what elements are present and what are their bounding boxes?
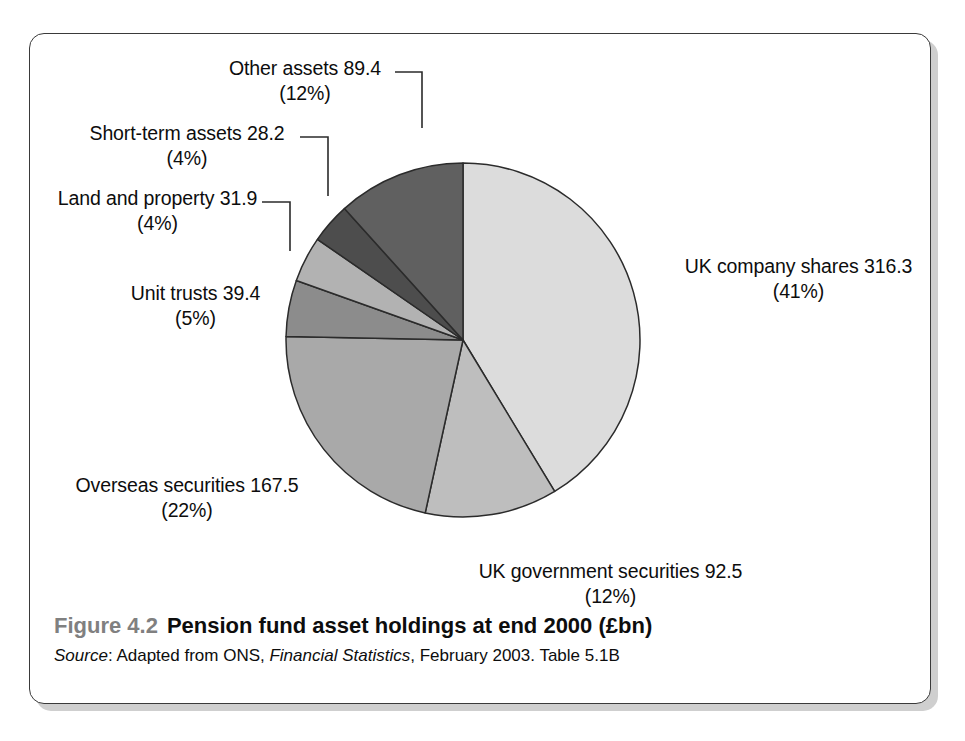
- figure-title: Pension fund asset holdings at end 2000 …: [167, 613, 652, 638]
- slice-label-overseas-securities-pct: (22%): [63, 498, 311, 523]
- source-publication: Financial Statistics: [269, 646, 410, 665]
- slice-label-land-and-property: Land and property 31.9 (4%): [45, 186, 270, 236]
- slice-label-uk-government-securities: UK government securities 92.5 (12%): [478, 559, 743, 609]
- pie-slices: [286, 163, 640, 517]
- figure-container: Other assets 89.4 (12%) Short-term asset…: [0, 0, 965, 741]
- slice-label-land-and-property-pct: (4%): [45, 211, 270, 236]
- source-post: , February 2003. Table 5.1B: [410, 646, 620, 665]
- figure-source-line: Source: Adapted from ONS, Financial Stat…: [54, 644, 894, 668]
- slice-label-other-assets-name: Other assets 89.4: [229, 57, 381, 79]
- slice-label-overseas-securities: Overseas securities 167.5 (22%): [63, 473, 311, 523]
- slice-label-unit-trusts: Unit trusts 39.4 (5%): [113, 281, 278, 331]
- slice-label-unit-trusts-name: Unit trusts 39.4: [131, 282, 261, 304]
- slice-label-other-assets: Other assets 89.4 (12%): [210, 56, 400, 106]
- slice-label-overseas-securities-name: Overseas securities 167.5: [76, 474, 299, 496]
- slice-label-short-term-assets-name: Short-term assets 28.2: [89, 122, 284, 144]
- slice-label-uk-government-securities-name: UK government securities 92.5: [479, 560, 743, 582]
- slice-label-uk-government-securities-pct: (12%): [478, 584, 743, 609]
- slice-label-short-term-assets-pct: (4%): [66, 146, 308, 171]
- figure-caption: Figure 4.2Pension fund asset holdings at…: [54, 612, 894, 668]
- slice-label-unit-trusts-pct: (5%): [113, 306, 278, 331]
- caption-title-line: Figure 4.2Pension fund asset holdings at…: [54, 612, 894, 640]
- slice-label-uk-company-shares: UK company shares 316.3 (41%): [679, 254, 918, 304]
- slice-label-short-term-assets: Short-term assets 28.2 (4%): [66, 121, 308, 171]
- slice-label-land-and-property-name: Land and property 31.9: [58, 187, 257, 209]
- slice-label-uk-company-shares-pct: (41%): [679, 279, 918, 304]
- slice-label-other-assets-pct: (12%): [210, 81, 400, 106]
- slice-label-uk-company-shares-name: UK company shares 316.3: [685, 255, 913, 277]
- source-label: Source: [54, 646, 108, 665]
- source-pre: : Adapted from ONS,: [108, 646, 270, 665]
- figure-number: Figure 4.2: [54, 613, 158, 638]
